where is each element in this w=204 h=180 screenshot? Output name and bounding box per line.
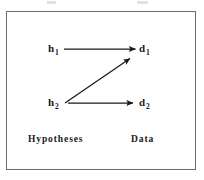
node-d2-base: d xyxy=(139,96,145,108)
edge-h2-to-d1 xyxy=(65,59,130,104)
column-caption-hypotheses: Hypotheses xyxy=(28,135,83,145)
node-h2-subscript: 2 xyxy=(55,102,59,111)
node-h1-subscript: 1 xyxy=(55,48,59,57)
diagram-figure: h1 h2 d1 d2 Hypotheses Data xyxy=(0,0,204,180)
node-label-d2: d2 xyxy=(139,97,149,108)
node-h2-base: h xyxy=(48,96,54,108)
node-label-h1: h1 xyxy=(48,43,58,54)
node-label-d1: d1 xyxy=(139,43,149,54)
node-label-h2: h2 xyxy=(48,97,58,108)
node-d1-subscript: 1 xyxy=(146,48,150,57)
node-d2-subscript: 2 xyxy=(146,102,150,111)
edges-layer xyxy=(0,0,204,180)
node-d1-base: d xyxy=(139,42,145,54)
node-h1-base: h xyxy=(48,42,54,54)
column-caption-data: Data xyxy=(131,135,154,145)
